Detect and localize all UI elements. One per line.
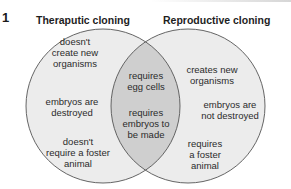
- right-item-2: embryos are not destroyed: [201, 99, 259, 121]
- text-line: be made: [123, 129, 170, 140]
- venn-diagram: [0, 0, 291, 189]
- right-item-3: requires a foster animal: [188, 138, 222, 171]
- text-line: egg cells: [127, 81, 165, 92]
- right-item-1: creates new organisms: [186, 64, 237, 86]
- text-line: organisms: [52, 58, 98, 69]
- text-line: organisms: [186, 75, 237, 86]
- text-line: not destroyed: [201, 110, 259, 121]
- left-item-2: embryos are destroyed: [46, 96, 99, 118]
- text-line: create new: [52, 47, 98, 58]
- text-line: embryos are: [201, 99, 259, 110]
- text-line: requires: [188, 138, 222, 149]
- text-line: requires: [123, 107, 170, 118]
- text-line: embryos are: [46, 96, 99, 107]
- left-item-1: doesn't create new organisms: [52, 36, 98, 69]
- text-line: creates new: [186, 64, 237, 75]
- text-line: embryos to: [123, 118, 170, 129]
- text-line: destroyed: [46, 107, 99, 118]
- text-line: doesn't: [46, 136, 110, 147]
- text-line: animal: [46, 158, 110, 169]
- text-line: requires: [127, 70, 165, 81]
- text-line: require a foster: [46, 147, 110, 158]
- text-line: a foster: [188, 149, 222, 160]
- intersection-item-2: requires embryos to be made: [123, 107, 170, 140]
- intersection-item-1: requires egg cells: [127, 70, 165, 92]
- left-item-3: doesn't require a foster animal: [46, 136, 110, 169]
- text-line: doesn't: [52, 36, 98, 47]
- text-line: animal: [188, 160, 222, 171]
